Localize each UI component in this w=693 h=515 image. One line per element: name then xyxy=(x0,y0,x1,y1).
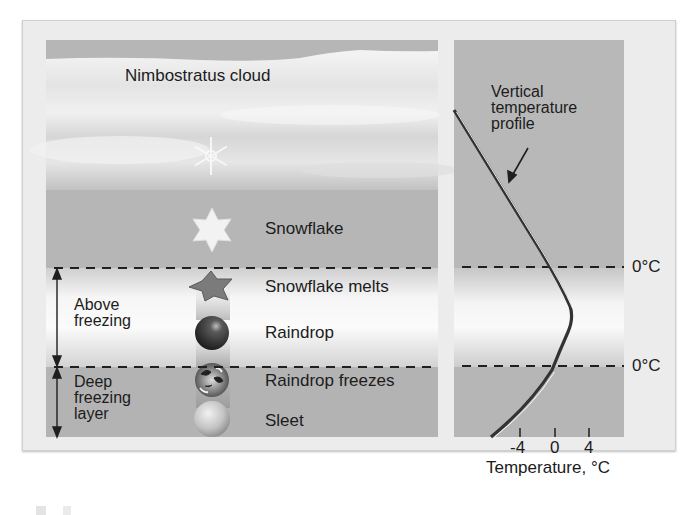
x-tick-label-neg4: -4 xyxy=(510,439,525,457)
deep-freezing-label-line2: freezing xyxy=(74,390,131,406)
profile-label-line2: temperature xyxy=(491,100,577,116)
profile-label-line3: profile xyxy=(491,116,535,132)
above-freezing-label-line1: Above xyxy=(74,297,119,313)
stage-label-raindrop: Raindrop xyxy=(265,324,334,342)
zero-c-label-bottom: 0°C xyxy=(632,357,661,375)
deep-freezing-label-line1: Deep xyxy=(74,374,112,390)
stage-label-snowflake: Snowflake xyxy=(265,220,343,238)
x-axis-label: Temperature, °C xyxy=(486,459,610,477)
stage-label-sleet: Sleet xyxy=(265,412,304,430)
raindrop-icon xyxy=(195,316,229,350)
x-tick-label-4: 4 xyxy=(584,439,593,457)
sleet-pellet-icon xyxy=(194,401,230,437)
stage-label-snowflake-melts: Snowflake melts xyxy=(265,278,389,296)
above-freezing-label-line2: freezing xyxy=(74,313,131,329)
freezing-raindrop-icon xyxy=(195,363,229,397)
cloud-label: Nimbostratus cloud xyxy=(125,67,271,85)
profile-label-line1: Vertical xyxy=(491,84,543,100)
stage-label-raindrop-freezes: Raindrop freezes xyxy=(265,372,394,390)
zero-c-label-top: 0°C xyxy=(632,258,661,276)
cropped-caption-fragment xyxy=(36,506,86,515)
deep-freezing-label-line3: layer xyxy=(74,406,109,422)
x-tick-label-0: 0 xyxy=(550,439,559,457)
